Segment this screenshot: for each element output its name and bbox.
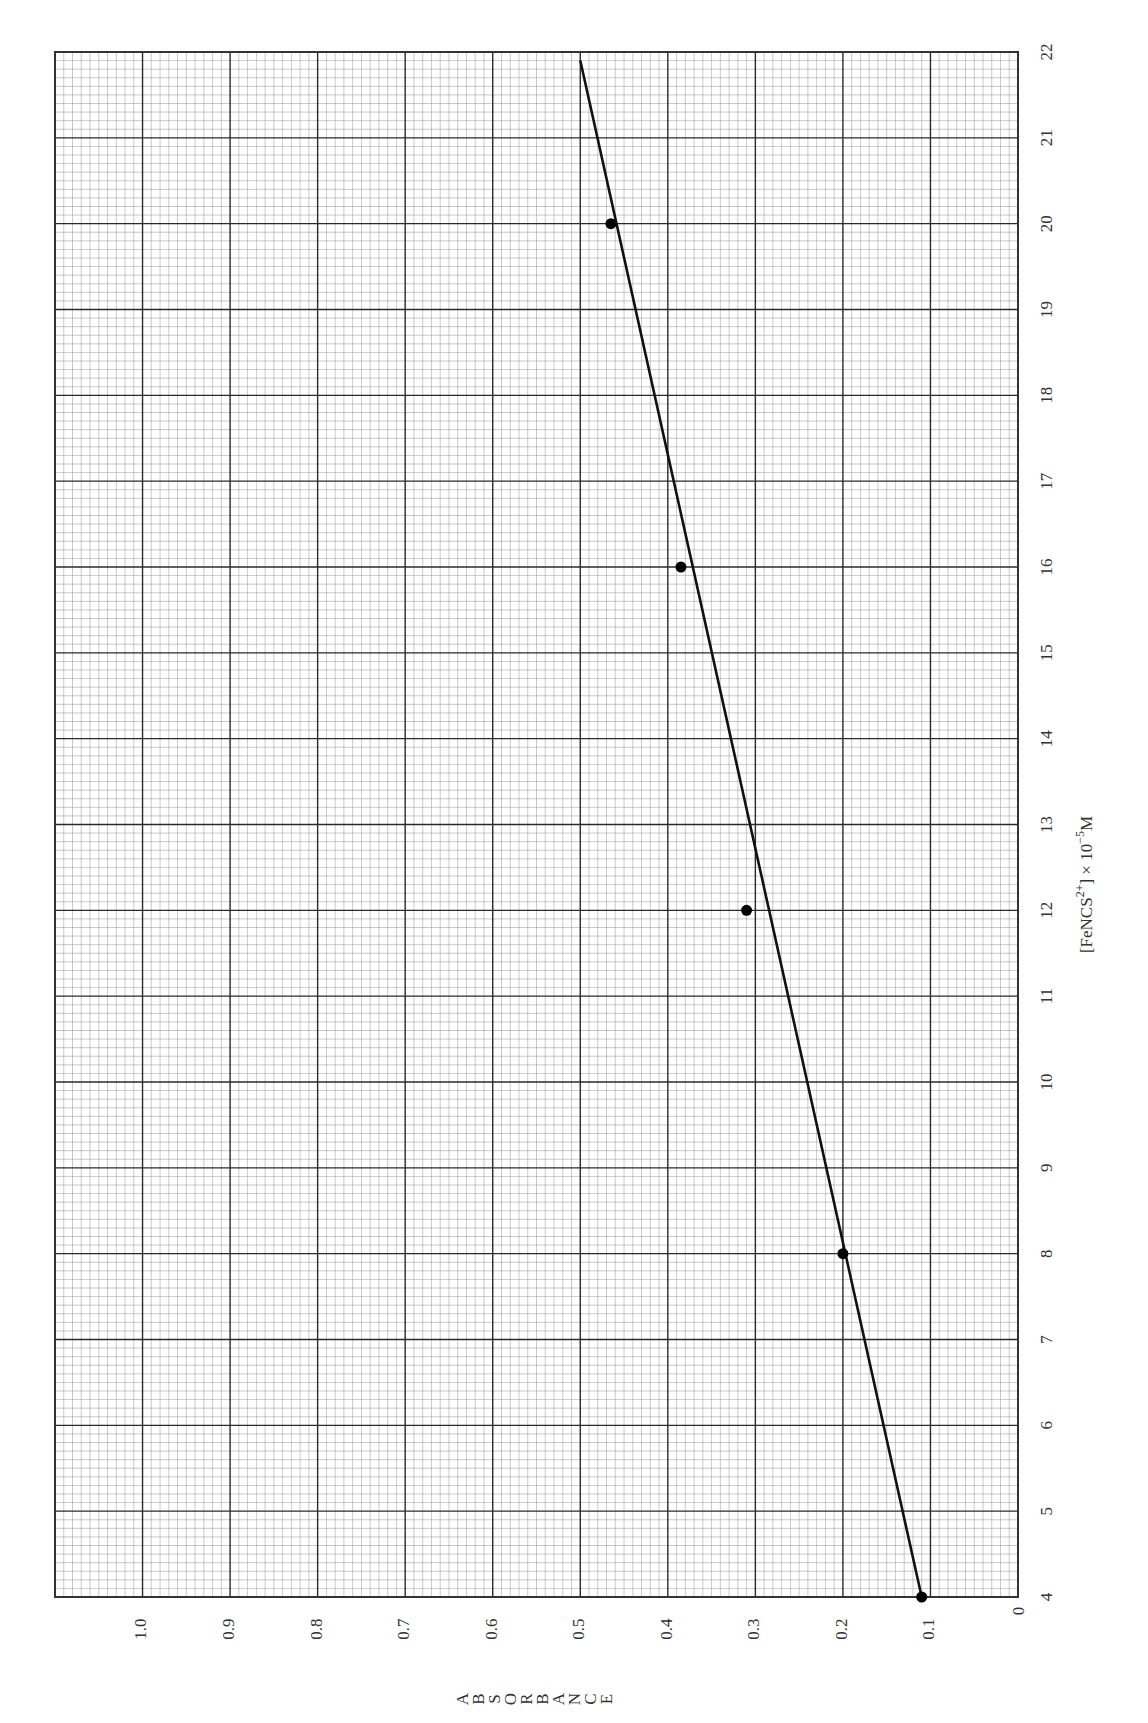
- y-tick-label: 0.2: [832, 1618, 851, 1639]
- x-tick-label: 15: [1037, 644, 1056, 661]
- y-tick-label: 0.4: [657, 1618, 676, 1640]
- x-tick-label: 16: [1037, 559, 1056, 576]
- x-tick-label: 6: [1037, 1421, 1056, 1430]
- y-axis-tick-labels: 00.10.20.30.40.50.60.70.80.91.0: [131, 1607, 1027, 1640]
- x-tick-label: 20: [1037, 215, 1056, 232]
- absorbance-calibration-chart: 45678910111213141516171819202122 00.10.2…: [0, 0, 1148, 1723]
- x-axis-tick-labels: 45678910111213141516171819202122: [1037, 44, 1056, 1602]
- x-tick-label: 5: [1037, 1507, 1056, 1516]
- data-point: [837, 1248, 848, 1259]
- y-tick-label: 0: [1009, 1607, 1028, 1616]
- x-tick-label: 4: [1037, 1592, 1056, 1601]
- y-tick-label: 0.9: [219, 1618, 238, 1639]
- x-tick-label: 12: [1037, 902, 1056, 919]
- x-tick-label: 8: [1037, 1249, 1056, 1258]
- x-tick-label: 10: [1037, 1074, 1056, 1091]
- data-point: [916, 1592, 927, 1603]
- y-axis-title-letter: E: [597, 1694, 616, 1704]
- x-tick-label: 18: [1037, 387, 1056, 404]
- y-tick-label: 0.7: [394, 1618, 413, 1640]
- data-point: [741, 905, 752, 916]
- x-axis-title: [FeNCS2+] × 10−5M: [1073, 816, 1096, 953]
- x-tick-label: 21: [1037, 129, 1056, 146]
- x-tick-label: 11: [1037, 988, 1056, 1004]
- y-tick-label: 0.3: [744, 1618, 763, 1639]
- x-tick-label: 22: [1037, 44, 1056, 61]
- y-tick-label: 0.6: [482, 1618, 501, 1639]
- x-tick-label: 17: [1037, 472, 1056, 490]
- y-tick-label: 0.8: [307, 1618, 326, 1639]
- x-tick-label: 14: [1037, 730, 1056, 748]
- data-point: [675, 562, 686, 573]
- x-tick-label: 19: [1037, 301, 1056, 318]
- best-fit-line: [580, 61, 921, 1597]
- y-tick-label: 0.1: [919, 1618, 938, 1639]
- x-tick-label: 9: [1037, 1164, 1056, 1173]
- x-tick-label: 7: [1037, 1335, 1056, 1344]
- x-tick-label: 13: [1037, 816, 1056, 833]
- y-tick-label: 0.5: [569, 1618, 588, 1639]
- y-tick-label: 1.0: [131, 1618, 150, 1639]
- data-point: [605, 218, 616, 229]
